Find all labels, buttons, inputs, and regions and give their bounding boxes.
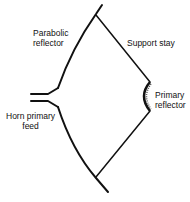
parabolic-reflector-lower [58,107,108,192]
parabolic-reflector-label: Parabolic reflector [33,28,68,48]
support-stay-label: Support stay [127,38,175,48]
antenna-diagram: Parabolic reflector Support stay Primary… [0,0,190,202]
label-line: reflector [155,100,186,110]
label-line: feed [6,121,55,131]
horn-feed-lower [31,101,58,107]
label-line: Horn primary [6,111,55,121]
support-stay-upper [96,15,150,82]
horn-feed-label: Horn primary feed [6,111,55,131]
label-line: reflector [33,38,68,48]
primary-reflector-label: Primary reflector [155,90,186,110]
label-line: Primary [155,90,186,100]
horn-feed-upper [31,88,58,94]
label-line: Parabolic [33,28,68,38]
label-line: Support stay [127,38,175,48]
support-stay-lower [96,111,150,177]
